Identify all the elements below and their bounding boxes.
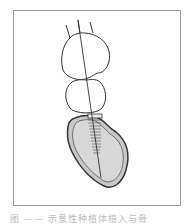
figure-caption: 图 —— 示意性种植体植入与骨 <box>10 212 190 224</box>
implant-illustration <box>0 0 195 224</box>
